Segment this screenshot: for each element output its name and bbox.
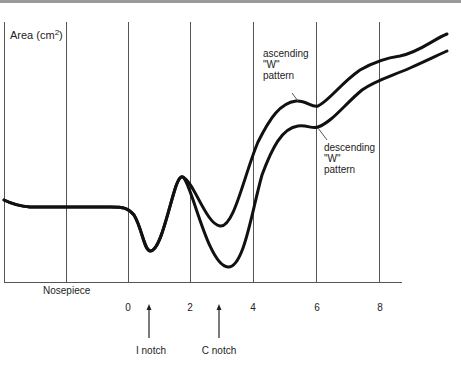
ascending-label-line-2: "W" [263, 59, 309, 70]
ascending-label-line-1: ascending [263, 48, 309, 59]
c-notch-arrow [217, 304, 222, 338]
descending-label-line-3: pattern [324, 164, 375, 175]
nosepiece-label: Nosepiece [43, 285, 90, 297]
x-tick-4: 4 [250, 302, 256, 314]
ascending-w-label: ascending "W" pattern [263, 48, 309, 81]
ascending-label-line-3: pattern [263, 70, 309, 81]
y-axis-label: Area (cm2) [10, 29, 63, 41]
x-tick-6: 6 [314, 302, 320, 314]
chart-plot-area [0, 0, 461, 374]
i-notch-arrow [147, 304, 152, 338]
descending-w-label: descending "W" pattern [324, 142, 375, 175]
i-notch-label: I notch [136, 345, 166, 357]
x-tick-2: 2 [187, 302, 193, 314]
c-notch-label: C notch [202, 345, 236, 357]
descending-label-line-2: "W" [324, 153, 375, 164]
ascending-w-curve [4, 34, 447, 251]
descending-label-line-1: descending [324, 142, 375, 153]
descending-leader-line [318, 128, 327, 140]
descending-w-curve [4, 51, 447, 267]
x-tick-8: 8 [377, 302, 383, 314]
x-tick-0: 0 [125, 302, 131, 314]
